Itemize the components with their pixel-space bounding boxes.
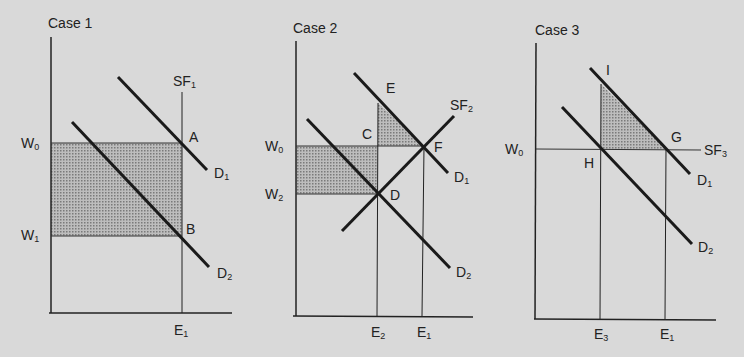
case3-point-h: H — [584, 156, 594, 170]
case3-e1-label: E1 — [660, 327, 674, 343]
case2-e1-line — [422, 146, 424, 316]
case3-e3-label: E3 — [594, 327, 608, 343]
case2-shaded-rect — [296, 146, 378, 194]
case3-point-i: I — [606, 63, 610, 77]
case2-point-d: D — [390, 188, 400, 202]
case2-e2-label: E2 — [371, 325, 385, 341]
case1-w0-label: W0 — [21, 136, 39, 152]
case2-d2-label: D2 — [456, 265, 471, 281]
case3-d2-label: D2 — [698, 240, 713, 256]
case2-w0-label: W0 — [265, 139, 283, 155]
case3-y-axis — [535, 43, 536, 319]
case2-e2-line — [377, 103, 378, 316]
case1-w1-label: W1 — [21, 228, 39, 244]
case2-sf2-label: SF2 — [450, 98, 473, 114]
case3-sf3-label: SF3 — [704, 143, 727, 159]
case3-point-g: G — [671, 130, 682, 144]
case3-title: Case 3 — [535, 23, 579, 37]
case3-e1-line — [665, 149, 666, 319]
case1-d2-label: D2 — [217, 266, 232, 282]
case3-e3-line — [600, 84, 601, 319]
case2-point-e: E — [386, 81, 395, 95]
case2-point-c: C — [362, 127, 372, 141]
case2-title: Case 2 — [293, 21, 337, 35]
case2-w2-label: W2 — [265, 187, 283, 203]
case3-chart — [534, 43, 716, 320]
case1-point-b: B — [186, 222, 195, 236]
case1-sf1-label: SF1 — [173, 74, 196, 90]
case2-chart — [293, 41, 473, 317]
case1-e1-label: E1 — [174, 323, 188, 339]
case2-d1-label: D1 — [454, 170, 469, 186]
case2-point-f: F — [434, 140, 443, 154]
case1-d1-label: D1 — [214, 166, 229, 182]
case3-w0-label: W0 — [505, 142, 523, 158]
case3-sf3-line — [536, 149, 701, 150]
case3-d1-label: D1 — [697, 173, 712, 189]
case1-title: Case 1 — [48, 16, 92, 30]
case2-x-axis — [293, 316, 473, 317]
case2-e1-label: E1 — [417, 325, 431, 341]
case1-point-a: A — [189, 130, 198, 144]
case3-x-axis — [534, 319, 716, 320]
case1-chart — [49, 37, 232, 313]
case1-shaded-area — [51, 143, 182, 236]
diagram-canvas — [0, 0, 744, 357]
